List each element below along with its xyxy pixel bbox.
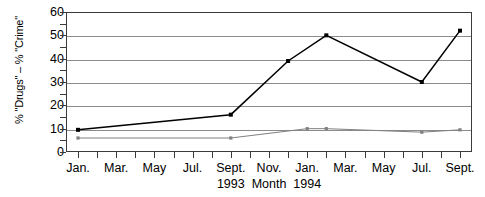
- x-tick-label: Sept.: [445, 162, 474, 175]
- x-tick-label: Nov.: [257, 162, 282, 175]
- data-point-marker: [76, 128, 80, 132]
- data-point-marker: [76, 136, 79, 139]
- x-tick-mark: [135, 152, 136, 158]
- data-point-marker: [458, 29, 462, 33]
- x-tick-mark: [269, 152, 270, 158]
- x-tick-mark: [193, 152, 194, 158]
- x-tick-label: Jan.: [66, 162, 90, 175]
- x-tick-mark: [288, 152, 289, 158]
- x-tick-mark: [212, 152, 213, 158]
- series-line: [78, 129, 460, 138]
- x-tick-mark: [326, 152, 327, 158]
- x-tick-sublabel: Month: [252, 178, 287, 191]
- x-tick-sublabel: 1993: [217, 178, 245, 191]
- x-tick-mark: [116, 152, 117, 158]
- chart-figure: % "Drugs" – % "Crime" 0102030405060 Jan.…: [0, 0, 485, 197]
- x-tick-mark: [365, 152, 366, 158]
- x-tick-label: Jul.: [412, 162, 431, 175]
- data-point-marker: [229, 136, 232, 139]
- x-tick-mark: [97, 152, 98, 158]
- x-tick-mark: [307, 152, 308, 158]
- x-tick-label: Jan.: [295, 162, 319, 175]
- data-point-marker: [458, 128, 461, 131]
- x-tick-mark: [422, 152, 423, 158]
- x-tick-mark: [78, 152, 79, 158]
- x-tick-label: Sept.: [216, 162, 245, 175]
- x-tick-mark: [174, 152, 175, 158]
- series-line: [78, 31, 460, 130]
- x-tick-label: May: [372, 162, 396, 175]
- data-point-marker: [325, 127, 328, 130]
- data-point-marker: [324, 33, 328, 37]
- x-tick-mark: [250, 152, 251, 158]
- data-point-marker: [286, 59, 290, 63]
- x-tick-sublabel: 1994: [293, 178, 321, 191]
- x-tick-mark: [460, 152, 461, 158]
- x-tick-label: Mar.: [333, 162, 357, 175]
- x-tick-mark: [441, 152, 442, 158]
- data-point-marker: [306, 127, 309, 130]
- x-tick-label: Mar.: [104, 162, 128, 175]
- data-point-marker: [229, 113, 233, 117]
- x-tick-mark: [384, 152, 385, 158]
- x-tick-mark: [345, 152, 346, 158]
- data-point-marker: [420, 131, 423, 134]
- x-tick-mark: [231, 152, 232, 158]
- x-tick-label: May: [143, 162, 167, 175]
- x-tick-mark: [403, 152, 404, 158]
- x-tick-label: Jul.: [183, 162, 202, 175]
- x-tick-mark: [154, 152, 155, 158]
- data-point-marker: [420, 80, 424, 84]
